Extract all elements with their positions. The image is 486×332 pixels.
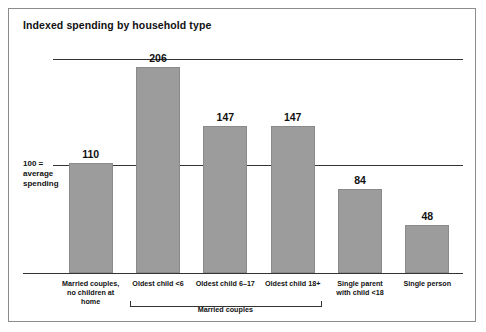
bar[interactable] [338, 189, 382, 273]
bar[interactable] [203, 126, 247, 273]
category-label-line: Oldest child <6 [124, 279, 191, 288]
bar-value-label: 147 [217, 111, 235, 123]
bar-slot: 206 [124, 43, 191, 273]
bar-value-label: 206 [149, 52, 167, 64]
category-label: Single person [394, 279, 461, 288]
category-label-line: with child <18 [326, 288, 393, 297]
category-label-line: Married couples, [57, 279, 124, 288]
plot-area: 100 = average spending 1102061471478448 [23, 43, 463, 273]
bar[interactable] [405, 225, 449, 273]
bar-slot: 110 [57, 43, 124, 273]
bar[interactable] [69, 163, 113, 273]
bar-value-label: 147 [284, 111, 302, 123]
bar[interactable] [136, 67, 180, 273]
bar-series: 1102061471478448 [57, 43, 461, 273]
bar[interactable] [271, 126, 315, 273]
category-label-line: Single parent [326, 279, 393, 288]
bar-slot: 147 [192, 43, 259, 273]
bar-slot: 147 [259, 43, 326, 273]
bar-value-label: 84 [354, 174, 366, 186]
category-label-line: Single person [394, 279, 461, 288]
bar-value-label: 110 [82, 148, 99, 160]
category-label-line: Oldest child 18+ [259, 279, 326, 288]
bar-slot: 48 [394, 43, 461, 273]
category-label: Oldest child 6–17 [192, 279, 259, 288]
group-label: Married couples [130, 305, 320, 314]
page-title: Indexed spending by household type [23, 19, 211, 31]
category-label: Married couples,no children at home [57, 279, 124, 306]
axis-baseline [23, 273, 463, 274]
category-label-line: no children at home [57, 288, 124, 306]
category-label: Oldest child 18+ [259, 279, 326, 288]
bar-slot: 84 [326, 43, 393, 273]
bar-value-label: 48 [421, 210, 433, 222]
category-label-line: Oldest child 6–17 [192, 279, 259, 288]
category-label: Single parentwith child <18 [326, 279, 393, 297]
category-label: Oldest child <6 [124, 279, 191, 288]
chart-card: Indexed spending by household type 100 =… [8, 8, 476, 322]
